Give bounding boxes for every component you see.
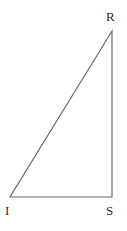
geometry-figure: R I S [0,0,127,231]
figure-background [0,0,127,231]
vertex-label-I: I [5,204,9,217]
vertex-label-S: S [106,204,113,217]
vertex-label-R: R [106,10,115,23]
triangle-drawing [0,0,127,231]
